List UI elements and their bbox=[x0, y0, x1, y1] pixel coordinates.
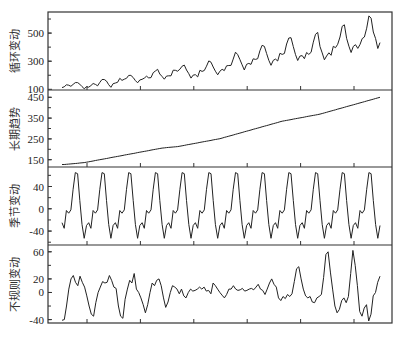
y-tick-label: 300 bbox=[28, 55, 45, 67]
decomposition-chart: 100300500循环变动150250350450长期趋势-40040季节变动-… bbox=[0, 0, 399, 338]
seasonal-panel-line bbox=[62, 173, 380, 239]
y-tick-label: 0 bbox=[39, 286, 45, 298]
irregular-panel-line bbox=[62, 250, 380, 321]
y-tick-label: 20 bbox=[33, 273, 45, 285]
cyclical-panel-ylabel: 循环变动 bbox=[8, 29, 22, 73]
cyclical-panel-line bbox=[62, 16, 380, 89]
y-tick-label: 350 bbox=[28, 112, 45, 124]
y-tick-label: 60 bbox=[33, 246, 45, 258]
y-tick-label: 40 bbox=[33, 181, 45, 193]
series-lines bbox=[62, 16, 380, 321]
y-tick-label: 0 bbox=[39, 203, 45, 215]
y-tick-label: 450 bbox=[28, 91, 45, 103]
y-tick-label: 150 bbox=[28, 154, 45, 166]
y-tick-label: 500 bbox=[28, 27, 45, 39]
trend-panel-line bbox=[62, 97, 380, 164]
y-tick-label: -40 bbox=[29, 225, 44, 237]
y-tick-label: 250 bbox=[28, 133, 45, 145]
axis-labels: 100300500循环变动150250350450长期趋势-40040季节变动-… bbox=[8, 27, 45, 326]
seasonal-panel-ylabel: 季节变动 bbox=[8, 184, 22, 228]
panel-frames bbox=[48, 12, 392, 323]
trend-panel-ylabel: 长期趋势 bbox=[9, 107, 22, 151]
irregular-panel-ylabel: 不规则变动 bbox=[8, 257, 22, 312]
y-tick-label: -40 bbox=[29, 314, 44, 326]
